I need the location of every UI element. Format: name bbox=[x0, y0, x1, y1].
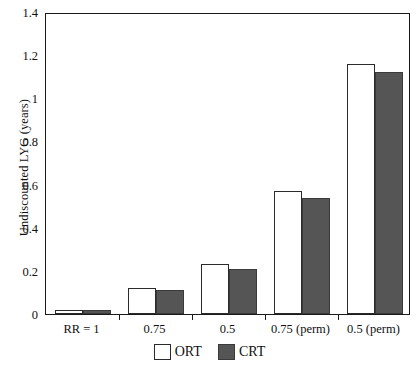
legend-item-crt: CRT bbox=[218, 344, 265, 360]
x-category-label: 0.75 (perm) bbox=[271, 322, 330, 337]
legend-label: ORT bbox=[175, 344, 202, 360]
x-category-label: 0.5 bbox=[220, 322, 236, 337]
y-tick-label: 1.2 bbox=[4, 50, 38, 63]
legend-swatch-ort bbox=[154, 344, 171, 360]
x-tick-mark bbox=[119, 314, 120, 320]
y-tick-label: 0.4 bbox=[4, 222, 38, 235]
bar-ort-0 bbox=[55, 310, 83, 314]
x-tick-mark bbox=[192, 314, 193, 320]
y-tick-label: 1 bbox=[4, 93, 38, 106]
bar-crt-0 bbox=[83, 310, 111, 314]
legend-label: CRT bbox=[239, 344, 265, 360]
bar-ort-1 bbox=[128, 288, 156, 314]
y-tick-label: 1.4 bbox=[4, 7, 38, 20]
plot-area bbox=[45, 13, 410, 315]
x-tick-mark bbox=[338, 314, 339, 320]
x-tick-mark bbox=[265, 314, 266, 320]
y-tick-label: 0 bbox=[4, 309, 38, 322]
y-tick-label: 0.6 bbox=[4, 179, 38, 192]
bar-crt-4 bbox=[375, 72, 403, 314]
legend-swatch-crt bbox=[218, 344, 235, 360]
bar-ort-4 bbox=[347, 64, 375, 314]
legend-item-ort: ORT bbox=[154, 344, 202, 360]
bar-crt-2 bbox=[229, 269, 257, 314]
bar-crt-1 bbox=[156, 290, 184, 314]
chart-legend: ORTCRT bbox=[0, 344, 419, 360]
bar-ort-2 bbox=[201, 264, 229, 314]
y-tick-label: 0.2 bbox=[4, 266, 38, 279]
bar-chart: Undiscounted LYG (years) 00.20.40.60.811… bbox=[0, 0, 419, 367]
bar-ort-3 bbox=[274, 191, 302, 314]
x-category-label: RR = 1 bbox=[63, 322, 99, 337]
x-category-label: 0.5 (perm) bbox=[347, 322, 400, 337]
y-tick-label: 0.8 bbox=[4, 136, 38, 149]
x-category-label: 0.75 bbox=[144, 322, 166, 337]
bar-crt-3 bbox=[302, 198, 330, 314]
